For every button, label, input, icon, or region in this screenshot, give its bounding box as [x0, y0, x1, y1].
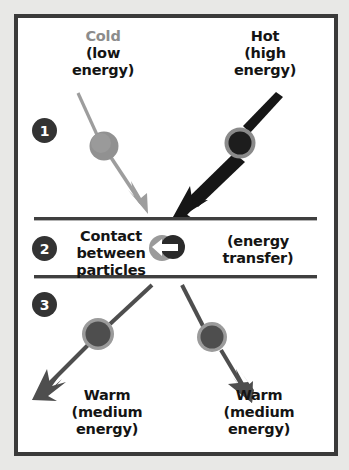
step-badge-2: 2: [32, 236, 57, 261]
label-energy-transfer: (energy transfer): [198, 233, 318, 267]
label-hot-line2: energy): [210, 62, 320, 79]
label-hot-line1: (high: [210, 45, 320, 62]
step-badge-3: 3: [32, 292, 57, 317]
label-warm-left-line2: energy): [48, 421, 166, 438]
label-contact-line1: Contact: [55, 228, 167, 245]
label-transfer-line2: transfer): [198, 250, 318, 267]
label-warm-left-line1: (medium: [48, 404, 166, 421]
label-cold-line2: energy): [48, 62, 158, 79]
label-warm-left: Warm (medium energy): [48, 387, 166, 438]
label-hot: Hot (high energy): [210, 28, 320, 79]
label-hot-heading: Hot: [210, 28, 320, 45]
label-transfer-line1: (energy: [198, 233, 318, 250]
diagram-page: Cold (low energy) Hot (high energy) Cont…: [0, 0, 349, 470]
label-cold-heading: Cold: [48, 28, 158, 45]
label-contact-line3: particles: [55, 262, 167, 279]
label-warm-left-heading: Warm: [48, 387, 166, 404]
step-badge-1: 1: [32, 118, 57, 143]
label-contact-between-particles: Contact between particles: [55, 228, 167, 279]
label-warm-right-heading: Warm: [198, 387, 320, 404]
label-cold: Cold (low energy): [48, 28, 158, 79]
label-contact-line2: between: [55, 245, 167, 262]
label-warm-right-line1: (medium: [198, 404, 320, 421]
label-cold-line1: (low: [48, 45, 158, 62]
label-warm-right: Warm (medium energy): [198, 387, 320, 438]
label-warm-right-line2: energy): [198, 421, 320, 438]
